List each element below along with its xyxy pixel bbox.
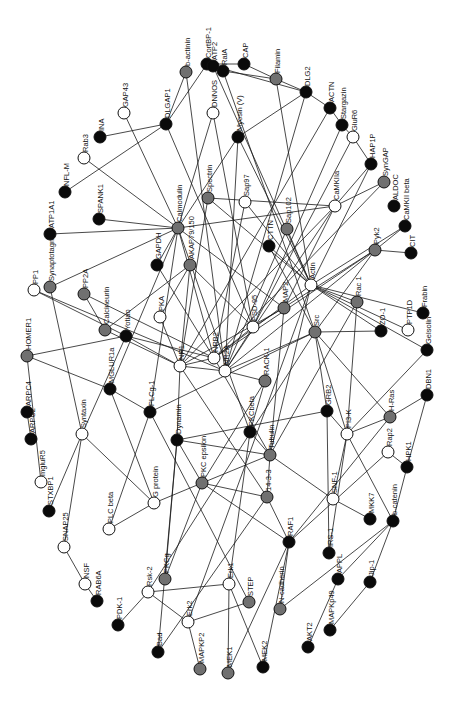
node-circle-icon [238, 58, 250, 70]
node-GRB2[interactable]: GRB2 [321, 385, 333, 417]
node-Spectrin[interactable]: Spectrin [202, 164, 214, 204]
node-ATP1A1[interactable]: ATP1A1 [44, 201, 56, 240]
node-SNF-1[interactable]: SNF-1 [327, 471, 339, 505]
node-Calmodulin[interactable]: Calmodulin [172, 184, 184, 234]
node-IRS-1[interactable]: IRS-1 [323, 528, 335, 559]
node-DBN1[interactable]: DBN1 [421, 369, 433, 401]
node-PLC-beta[interactable]: PLC beta [103, 491, 115, 535]
node-Erk1[interactable]: Erk1 [223, 563, 235, 590]
edge-Bad-14-3-3 [158, 497, 267, 652]
node-CTTN[interactable]: CTTN [263, 220, 275, 252]
node-MAPKp49[interactable]: MAPKp49 [324, 590, 336, 636]
node-AKT2[interactable]: AKT2 [302, 622, 314, 653]
node-Erk2[interactable]: Erk2 [182, 601, 194, 628]
node-label: GAPDH [154, 232, 163, 259]
node-PP1[interactable]: PP1 [28, 270, 40, 296]
node-PLCg-1[interactable]: PLCg-1 [144, 381, 156, 418]
node-AKAP79-150[interactable]: AKAP79/150 [184, 216, 196, 271]
node-circle-icon [196, 477, 208, 489]
node-HOMER1[interactable]: HOMER1 [21, 318, 33, 362]
node-b-actinin[interactable]: b-actinin [180, 38, 192, 78]
node-CaMKII-beta[interactable]: CaMKII beta [399, 177, 411, 232]
edge-Filamin-Actin [276, 79, 311, 285]
node-CIT[interactable]: CIT [405, 235, 417, 260]
node-label: CaMKII beta [402, 177, 411, 220]
node-Tubulin[interactable]: Tubulin [264, 425, 276, 461]
node-RAF1[interactable]: RAF1 [283, 517, 295, 548]
node-b-catenin[interactable]: b-catenin [387, 484, 399, 527]
node-CAP[interactable]: CAP [238, 43, 250, 70]
node-PDK-1[interactable]: PDK-1 [112, 597, 124, 631]
node-label: MKK7 [367, 493, 376, 513]
node-PKA[interactable]: PKA [154, 296, 166, 323]
node-Filamin[interactable]: Filamin [270, 49, 282, 85]
node-MKK7[interactable]: MKK7 [364, 493, 376, 525]
node-circle-icon [305, 279, 317, 291]
node-SNAP25[interactable]: SNAP25 [58, 512, 70, 553]
node-APPL[interactable]: APPL [332, 554, 344, 585]
node-ACTN[interactable]: ACTN [324, 82, 336, 114]
node-HAP1P[interactable]: HAP1P [365, 133, 377, 170]
node-Stargazin[interactable]: Stargazin [336, 87, 348, 131]
node-STEP[interactable]: STEP [243, 576, 255, 608]
node-GAP43[interactable]: GAP43 [118, 83, 130, 119]
node-circle-icon [243, 596, 255, 608]
node-MEK1[interactable]: MEK1 [222, 647, 234, 679]
node-MGLUR1a[interactable]: MGLUR1a [104, 347, 116, 395]
node-circle-icon [144, 406, 156, 418]
node-DLGAP1[interactable]: DLGAP1 [160, 88, 172, 130]
node-Jip-1[interactable]: Jip-1 [364, 560, 376, 588]
node-mgluR5[interactable]: mgluR5 [35, 450, 47, 488]
node-H-Ras[interactable]: H-Ras [384, 389, 396, 423]
node-NFL-M[interactable]: NFL-M [59, 163, 71, 198]
node-Gelsolin[interactable]: Gelsolin [421, 317, 433, 356]
node-DLG2[interactable]: DLG2 [300, 66, 312, 98]
node-label: DBN1 [424, 369, 433, 389]
node-Bad[interactable]: Bad [152, 633, 164, 658]
node-SPANK1[interactable]: SPANK1 [93, 184, 105, 225]
node-PKCg[interactable]: PKCg [159, 553, 171, 585]
node-PI3-K[interactable]: PI3-K [341, 409, 353, 440]
node-circle-icon [207, 60, 219, 72]
node-Calcineurin[interactable]: Calcineurin [99, 286, 111, 336]
node-G-protein[interactable]: G protein [148, 466, 160, 509]
node-Src[interactable]: Src [309, 315, 321, 339]
node-circle-icon [142, 586, 154, 598]
node-Pyk2[interactable]: Pyk2 [369, 227, 381, 256]
node-N-cadherin[interactable]: N-cadherin [274, 566, 286, 615]
node-INA[interactable]: INA [94, 118, 106, 143]
node-circle-icon [76, 428, 88, 440]
node-RACK-1[interactable]: RACK-1 [259, 347, 271, 387]
node-DNNOS[interactable]: DNNOS [207, 80, 219, 119]
node-circle-icon [302, 641, 314, 653]
node-Frabin[interactable]: Frabin [417, 286, 429, 319]
node-14-3-3[interactable]: 14-3-3 [261, 469, 273, 503]
node-PKCbeta[interactable]: PKCbeta [244, 395, 256, 438]
node-Yotiao[interactable]: Yotiao [120, 309, 132, 342]
node-PSD-95[interactable]: PSD-95 [247, 295, 259, 333]
node-CaMKIIa[interactable]: CaMKIIa [329, 170, 341, 212]
node-ZO-1[interactable]: ZO-1 [375, 308, 387, 337]
node-label: MEK2 [260, 641, 269, 661]
node-Rac1[interactable]: Rac 1 [351, 276, 363, 308]
node-PTP1D[interactable]: PTP1D [402, 299, 414, 336]
edge-SynGAP-CaMKIIa [335, 182, 384, 206]
node-MAP2[interactable]: MAP2 [278, 282, 290, 314]
node-label: Jip-1 [367, 560, 376, 576]
node-GluR6[interactable]: GluR6 [347, 110, 359, 143]
node-circle-icon [336, 119, 348, 131]
node-Syntaxin[interactable]: Syntaxin [76, 399, 88, 440]
node-HPK1[interactable]: HPK1 [401, 441, 413, 473]
node-Rap2[interactable]: Rap2 [382, 428, 394, 458]
node-RAB6A[interactable]: RAB6A [91, 570, 103, 607]
node-GAPDH[interactable]: GAPDH [151, 232, 163, 271]
node-NRB2[interactable]: NRB2 [208, 332, 220, 364]
node-SynGAP[interactable]: SynGAP [378, 147, 390, 188]
node-SAP97[interactable]: Sap97 [239, 174, 251, 208]
node-Rsk-2[interactable]: Rsk-2 [142, 566, 154, 598]
node-NR1[interactable]: NR1 [174, 345, 186, 372]
node-ARPC4[interactable]: ARPC4 [21, 381, 33, 418]
node-Rab3[interactable]: Rab3 [78, 134, 90, 164]
node-label: Filamin [273, 49, 282, 73]
node-Dynamin[interactable]: Dynamin [171, 404, 183, 446]
